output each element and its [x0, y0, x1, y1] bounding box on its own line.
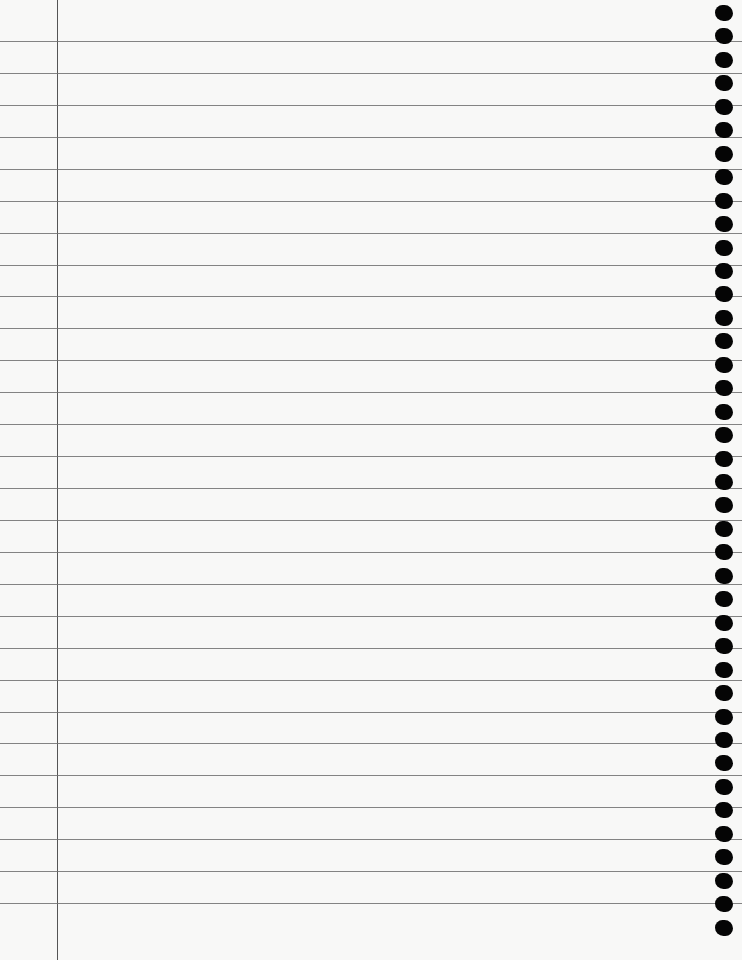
- binder-hole: [715, 755, 733, 771]
- ruled-line: [0, 807, 742, 808]
- binder-hole: [715, 263, 733, 279]
- binder-hole: [715, 286, 733, 302]
- ruled-line: [0, 903, 742, 904]
- ruled-line: [0, 552, 742, 553]
- binder-hole: [715, 310, 733, 326]
- ruled-line: [0, 105, 742, 106]
- binder-hole: [715, 521, 733, 537]
- ruled-line: [0, 233, 742, 234]
- ruled-line: [0, 743, 742, 744]
- binder-hole: [715, 638, 733, 654]
- ruled-line: [0, 648, 742, 649]
- ruled-line: [0, 456, 742, 457]
- binder-hole: [715, 52, 733, 68]
- binder-hole: [715, 427, 733, 443]
- ruled-line: [0, 73, 742, 74]
- binder-hole: [715, 802, 733, 818]
- binder-hole: [715, 591, 733, 607]
- notebook-page: [0, 0, 742, 960]
- binder-hole: [715, 169, 733, 185]
- ruled-line: [0, 328, 742, 329]
- binder-hole: [715, 849, 733, 865]
- ruled-line: [0, 265, 742, 266]
- binder-hole: [715, 544, 733, 560]
- binder-hole: [715, 779, 733, 795]
- ruled-line: [0, 871, 742, 872]
- ruled-line: [0, 360, 742, 361]
- ruled-line: [0, 616, 742, 617]
- binder-hole: [715, 732, 733, 748]
- ruled-line: [0, 680, 742, 681]
- binder-hole: [715, 380, 733, 396]
- margin-line: [57, 0, 58, 960]
- ruled-line: [0, 775, 742, 776]
- ruled-line: [0, 712, 742, 713]
- binder-hole: [715, 451, 733, 467]
- binder-hole: [715, 662, 733, 678]
- binder-hole: [715, 404, 733, 420]
- ruled-line: [0, 169, 742, 170]
- binder-hole: [715, 240, 733, 256]
- binder-hole: [715, 146, 733, 162]
- binder-hole: [715, 615, 733, 631]
- binder-hole: [715, 28, 733, 44]
- binder-hole: [715, 497, 733, 513]
- ruled-line: [0, 41, 742, 42]
- binder-hole: [715, 216, 733, 232]
- binder-hole: [715, 474, 733, 490]
- ruled-line: [0, 392, 742, 393]
- ruled-line: [0, 839, 742, 840]
- binder-hole: [715, 193, 733, 209]
- binder-hole: [715, 333, 733, 349]
- binder-hole: [715, 122, 733, 138]
- ruled-line: [0, 424, 742, 425]
- binder-hole: [715, 826, 733, 842]
- binder-hole: [715, 99, 733, 115]
- ruled-line: [0, 137, 742, 138]
- ruled-line: [0, 201, 742, 202]
- ruled-line: [0, 520, 742, 521]
- binder-hole: [715, 568, 733, 584]
- binder-hole: [715, 873, 733, 889]
- binder-hole: [715, 896, 733, 912]
- binder-hole: [715, 920, 733, 936]
- binder-hole: [715, 685, 733, 701]
- binder-hole: [715, 75, 733, 91]
- ruled-line: [0, 584, 742, 585]
- binder-hole: [715, 5, 733, 21]
- ruled-line: [0, 296, 742, 297]
- binder-hole: [715, 357, 733, 373]
- ruled-line: [0, 488, 742, 489]
- binder-hole: [715, 709, 733, 725]
